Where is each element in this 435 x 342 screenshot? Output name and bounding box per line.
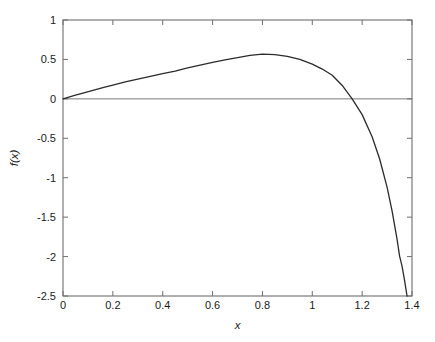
x-axis-tick-label: 1.4: [404, 299, 419, 311]
y-axis-tick-label: -1: [46, 172, 56, 184]
y-axis-tick-label: -0.5: [37, 132, 56, 144]
y-axis-tick-label: 0: [50, 93, 56, 105]
function-curve: [63, 54, 407, 296]
x-axis-tick-label: 0: [60, 299, 66, 311]
x-axis-tick-label: 0.6: [205, 299, 220, 311]
x-axis-tick-label: 1.2: [354, 299, 369, 311]
x-axis-tick-label: 1: [309, 299, 315, 311]
y-axis-tick-label: -1.5: [37, 211, 56, 223]
y-axis-tick-label: -2: [46, 251, 56, 263]
x-axis-tick-label: 0.4: [155, 299, 170, 311]
y-axis-tick-label: 1: [50, 14, 56, 26]
plot-frame: [63, 20, 412, 296]
y-axis-tick-label: 0.5: [41, 53, 56, 65]
x-axis-title: x: [234, 319, 242, 331]
x-axis-tick-label: 0.2: [105, 299, 120, 311]
y-axis-title: f(x): [8, 150, 20, 167]
y-axis-tick-label: -2.5: [37, 290, 56, 302]
x-axis-tick-label: 0.8: [255, 299, 270, 311]
figure-container: 00.20.40.60.811.21.410.50-0.5-1-1.5-2-2.…: [0, 0, 435, 342]
function-plot-chart: 00.20.40.60.811.21.410.50-0.5-1-1.5-2-2.…: [0, 0, 435, 342]
